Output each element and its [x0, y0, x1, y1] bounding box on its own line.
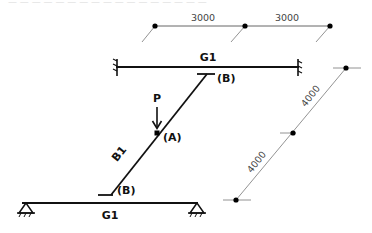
- horizontal-dimension: 3000 3000: [142, 12, 333, 42]
- dimension-node: [152, 23, 157, 28]
- top-girder: G1: [113, 51, 302, 76]
- cropped-header-text: — — — — — — — — — — — — — — — — —: [8, 0, 207, 7]
- top-girder-label: G1: [200, 51, 217, 64]
- dimension-label-4000-lower: 4000: [244, 149, 268, 175]
- dimension-node: [343, 65, 348, 70]
- top-connection-label: (B): [217, 72, 235, 85]
- bottom-connection-label: (B): [117, 184, 135, 197]
- fixed-support-icon: [113, 59, 117, 76]
- dimension-node: [242, 23, 247, 28]
- diagonal-beam-label: B1: [109, 144, 129, 165]
- bottom-girder: G1: [17, 203, 206, 222]
- pin-support-icon: [188, 203, 206, 217]
- load-label: P: [153, 92, 161, 105]
- bottom-girder-label: G1: [102, 209, 119, 222]
- diagonal-dimension: 4000 4000: [223, 65, 361, 202]
- pin-support-icon: [17, 203, 35, 217]
- load-point-label: (A): [163, 131, 182, 144]
- dimension-label-4000-upper: 4000: [298, 83, 322, 109]
- dimension-node: [290, 130, 295, 135]
- structural-diagram: — — — — — — — — — — — — — — — — — 3000 3…: [0, 0, 372, 233]
- fixed-support-icon: [298, 59, 302, 76]
- load-point-marker: [155, 131, 160, 136]
- dimension-label-3000-left: 3000: [191, 12, 215, 23]
- dimension-node: [327, 23, 332, 28]
- dimension-node: [233, 197, 238, 202]
- dimension-label-3000-right: 3000: [275, 12, 299, 23]
